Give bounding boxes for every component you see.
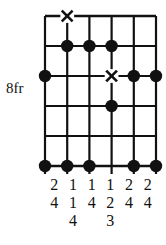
finger-number: 2 — [106, 194, 114, 212]
finger-number: 2 — [144, 176, 152, 194]
chord-diagram: 8fr 24114141232424 — [0, 0, 166, 245]
finger-number: 4 — [50, 194, 58, 212]
fret-lines-group — [45, 16, 156, 166]
note-dot-marker — [105, 40, 117, 52]
root-cross-marker — [60, 9, 74, 23]
finger-number: 4 — [88, 194, 96, 212]
note-dot-marker — [61, 160, 73, 172]
finger-number: 1 — [88, 176, 96, 194]
finger-number-column: 123 — [101, 176, 120, 230]
finger-number-row: 24114141232424 — [45, 176, 157, 242]
note-dot-marker — [150, 160, 162, 172]
note-dot-marker — [83, 160, 95, 172]
finger-number: 1 — [69, 176, 77, 194]
note-dot-marker — [83, 40, 95, 52]
note-dot-marker — [150, 70, 162, 82]
finger-number-column: 24 — [138, 176, 157, 212]
note-dot-marker — [39, 70, 51, 82]
finger-number: 1 — [106, 176, 114, 194]
note-dot-marker — [128, 160, 140, 172]
note-dot-marker — [61, 40, 73, 52]
finger-number: 2 — [125, 176, 133, 194]
note-dot-marker — [105, 100, 117, 112]
finger-number: 4 — [69, 212, 77, 230]
markers-group — [39, 9, 162, 172]
finger-number-column: 24 — [120, 176, 139, 212]
finger-number-column: 14 — [82, 176, 101, 212]
finger-number-column: 24 — [45, 176, 64, 212]
root-cross-marker — [105, 69, 119, 83]
finger-number: 1 — [69, 194, 77, 212]
note-dot-marker — [39, 160, 51, 172]
string-lines-group — [45, 16, 156, 174]
finger-number-column: 114 — [64, 176, 83, 230]
finger-number: 4 — [125, 194, 133, 212]
note-dot-marker — [128, 70, 140, 82]
finger-number: 3 — [106, 212, 114, 230]
finger-number: 4 — [144, 194, 152, 212]
finger-number: 2 — [50, 176, 58, 194]
